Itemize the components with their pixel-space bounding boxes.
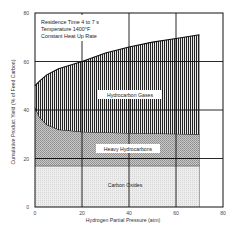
y-tick-label: 80: [23, 10, 29, 16]
y-tick-label: 40: [23, 107, 29, 113]
chart: 020406080020406080 Residence Time 4 to 7…: [0, 0, 241, 245]
x-tick-label: 60: [173, 210, 179, 216]
y-tick-label: 60: [23, 59, 29, 65]
y-tick-label: 20: [23, 156, 29, 162]
x-axis-label: Hydrogen Partial Pressure (atm): [86, 217, 161, 223]
x-tick-label: 40: [126, 210, 132, 216]
annotation-line-3: Constant Heat Up Rate: [41, 33, 97, 39]
region-label-heavy-hydrocarbons: Heavy Hydrocarbons: [104, 146, 153, 152]
x-tick-label: 20: [79, 210, 85, 216]
annotation-line-2: Temperature 1400°F: [41, 26, 91, 32]
x-tick-label: 0: [34, 210, 37, 216]
x-tick-label: 80: [220, 210, 226, 216]
annotation-line-1: Residence Time 4 to 7 s: [41, 19, 99, 25]
region-label-carbon-oxides: Carbon Oxides: [108, 182, 143, 188]
y-tick-label: 0: [26, 204, 29, 210]
region-label-hydrocarbon-gases: Hydrocarbon Gases: [107, 92, 154, 98]
y-axis-label: Cumulative Product Yield (% of Feed Carb…: [10, 59, 16, 164]
